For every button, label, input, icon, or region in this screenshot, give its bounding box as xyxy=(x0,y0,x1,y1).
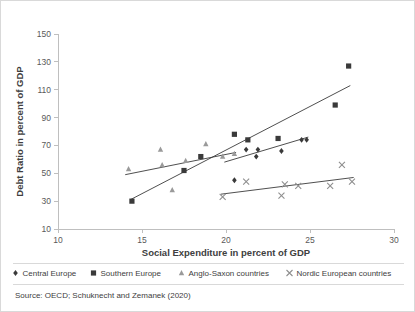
legend-label-central-europe: Central Europe xyxy=(23,269,77,278)
x-axis-title: Social Expenditure in percent of GDP xyxy=(142,247,311,258)
data-point-anglo-saxon-countries xyxy=(170,187,175,192)
data-point-southern-europe xyxy=(245,137,250,142)
data-points-layer xyxy=(126,63,355,203)
data-point-southern-europe xyxy=(333,102,338,107)
legend-label-southern-europe: Southern Europe xyxy=(101,269,162,278)
data-point-southern-europe xyxy=(91,270,96,275)
data-point-southern-europe xyxy=(232,132,237,137)
data-point-southern-europe xyxy=(129,199,134,204)
data-point-central-europe xyxy=(244,147,249,153)
data-point-nordic-european-countries xyxy=(349,179,355,185)
y-axis-title: Debt Ratio in percent of GDP xyxy=(14,66,25,197)
data-point-anglo-saxon-countries xyxy=(183,158,188,163)
y-tick-label: 10 xyxy=(42,224,52,234)
x-tick-label: 15 xyxy=(137,235,147,245)
scatter-chart: 10305070901101301501015202530 Social Exp… xyxy=(1,1,415,312)
data-point-central-europe xyxy=(13,270,18,276)
y-tick-label: 90 xyxy=(42,113,52,123)
x-tick-label: 20 xyxy=(221,235,231,245)
y-tick-label: 110 xyxy=(37,85,51,95)
y-tick-label: 30 xyxy=(42,196,52,206)
trendline-southern-europe xyxy=(130,86,350,200)
source-note: Source: OECD; Schuknecht and Zemanek (20… xyxy=(15,291,191,300)
trendlines-layer xyxy=(125,86,353,200)
data-point-central-europe xyxy=(299,137,304,143)
data-point-anglo-saxon-countries xyxy=(158,147,163,152)
x-tick-label: 30 xyxy=(389,235,399,245)
data-point-central-europe xyxy=(232,177,237,183)
legend-label-anglo-saxon-countries: Anglo-Saxon countries xyxy=(189,269,270,278)
axes-layer: 10305070901101301501015202530 xyxy=(37,29,399,245)
y-tick-label: 50 xyxy=(42,168,52,178)
data-point-southern-europe xyxy=(275,136,280,141)
data-point-nordic-european-countries xyxy=(243,179,249,185)
x-tick-label: 10 xyxy=(53,235,63,245)
data-point-nordic-european-countries xyxy=(295,183,301,189)
data-point-anglo-saxon-countries xyxy=(126,166,131,171)
trendline-anglo-saxon-countries xyxy=(125,152,236,174)
data-point-southern-europe xyxy=(346,63,351,68)
chart-figure: 10305070901101301501015202530 Social Exp… xyxy=(0,0,415,312)
y-tick-label: 70 xyxy=(42,140,52,150)
legend-layer: Central EuropeSouthern EuropeAnglo-Saxon… xyxy=(13,263,404,284)
data-point-anglo-saxon-countries xyxy=(159,162,164,167)
trendline-nordic-european-countries xyxy=(221,177,354,194)
data-point-nordic-european-countries xyxy=(220,194,226,200)
data-point-southern-europe xyxy=(198,154,203,159)
data-point-nordic-european-countries xyxy=(278,193,284,199)
data-point-anglo-saxon-countries xyxy=(179,270,184,275)
data-point-southern-europe xyxy=(181,168,186,173)
x-tick-label: 25 xyxy=(305,235,315,245)
y-tick-label: 130 xyxy=(37,57,51,67)
data-point-nordic-european-countries xyxy=(327,183,333,189)
legend-label-nordic-european-countries: Nordic European countries xyxy=(297,269,392,278)
data-point-nordic-european-countries xyxy=(339,162,345,168)
data-point-anglo-saxon-countries xyxy=(203,141,208,146)
data-point-nordic-european-countries xyxy=(287,270,293,276)
trendline-central-europe xyxy=(224,137,308,162)
data-point-central-europe xyxy=(254,154,259,160)
y-tick-label: 150 xyxy=(37,29,51,39)
footer-layer: Source: OECD; Schuknecht and Zemanek (20… xyxy=(15,291,191,300)
data-point-central-europe xyxy=(279,148,284,154)
